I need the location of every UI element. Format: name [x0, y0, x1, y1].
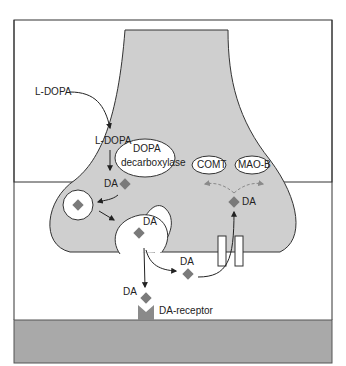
da-reuptake-label: DA [242, 197, 256, 207]
enzyme-label-1: DOPA [133, 144, 161, 154]
enzyme-label-2: decarboxylase [121, 158, 185, 168]
maob-label: MAO-B [238, 160, 271, 170]
da-label-1: DA [104, 179, 118, 189]
comt-label: COMT [197, 160, 226, 170]
receptor-label: DA-receptor [159, 306, 213, 316]
ldopa-outside-label: L-DOPA [35, 87, 72, 97]
transporter-left [218, 236, 226, 266]
transporter-right [235, 236, 243, 266]
ldopa-inside-label: L-DOPA [95, 136, 132, 146]
da-cleft-label: DA [180, 257, 194, 267]
receptor-shape [138, 305, 154, 320]
da-vesicle-label: DA [143, 217, 157, 227]
postsynaptic-membrane [14, 320, 332, 363]
da-receptor-label: DA [123, 287, 137, 297]
